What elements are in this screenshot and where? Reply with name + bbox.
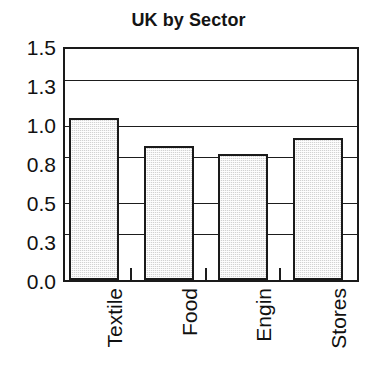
x-axis-tick bbox=[205, 268, 207, 280]
x-category-label-stores: Stores bbox=[328, 288, 349, 349]
bar-food bbox=[144, 146, 194, 280]
x-axis-tick bbox=[130, 268, 132, 280]
plot-inner bbox=[65, 49, 357, 280]
y-tick-label: 0.5 bbox=[0, 193, 56, 214]
x-category-label-food: Food bbox=[179, 288, 200, 336]
y-tick-label: 1.3 bbox=[0, 76, 56, 97]
y-tick-label: 0.0 bbox=[0, 271, 56, 292]
bar-chart: UK by Sector 1.5 1.3 1.0 0.8 0.5 0.3 0.0… bbox=[0, 0, 377, 378]
chart-title: UK by Sector bbox=[0, 10, 377, 31]
y-tick-label: 1.0 bbox=[0, 115, 56, 136]
bar-textile bbox=[69, 118, 119, 280]
bar-engin bbox=[218, 154, 268, 280]
plot-area bbox=[63, 47, 359, 282]
x-axis-tick bbox=[279, 268, 281, 280]
y-tick-label: 0.3 bbox=[0, 232, 56, 253]
y-tick-label: 0.8 bbox=[0, 154, 56, 175]
x-category-label-engin: Engin bbox=[253, 288, 274, 342]
gridline-1-3 bbox=[65, 80, 357, 81]
bar-stores bbox=[293, 138, 343, 280]
y-tick-label: 1.5 bbox=[0, 37, 56, 58]
x-category-label-textile: Textile bbox=[104, 288, 125, 348]
